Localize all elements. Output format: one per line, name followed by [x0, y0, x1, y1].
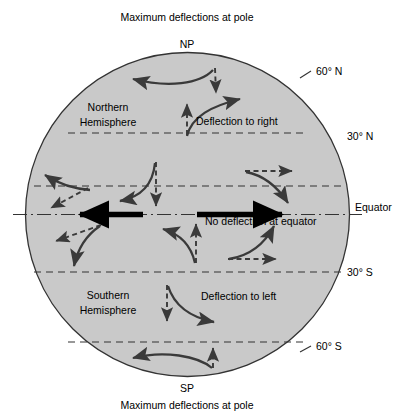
label-lat-30n: 30° N — [347, 130, 373, 142]
caption-top: Maximum deflections at pole — [120, 11, 253, 23]
label-lat-equator: Equator — [355, 201, 392, 213]
label-north-pole: NP — [180, 38, 195, 50]
label-south-pole: SP — [180, 382, 194, 394]
label-deflection-right: Deflection to right — [196, 115, 278, 127]
leader-line-60n — [300, 71, 311, 78]
leader-line-60s — [300, 346, 311, 352]
label-southern-hemisphere-line2: Hemisphere — [80, 304, 137, 316]
caption-bottom: Maximum deflections at pole — [120, 399, 253, 411]
label-deflection-left: Deflection to left — [201, 290, 276, 302]
label-southern-hemisphere-line1: Southern — [87, 289, 130, 301]
dashed-arrow-np-down — [215, 68, 216, 93]
label-lat-60s: 60° S — [316, 340, 342, 352]
label-lat-60n: 60° N — [316, 65, 342, 77]
label-northern-hemisphere-line2: Hemisphere — [80, 116, 137, 128]
label-lat-30s: 30° S — [347, 266, 373, 278]
label-northern-hemisphere-line1: Northern — [88, 101, 129, 113]
label-no-deflection-equator: No deflection at equator — [205, 215, 317, 227]
coriolis-diagram: Maximum deflections at pole NP 60° N 30°… — [0, 0, 403, 414]
